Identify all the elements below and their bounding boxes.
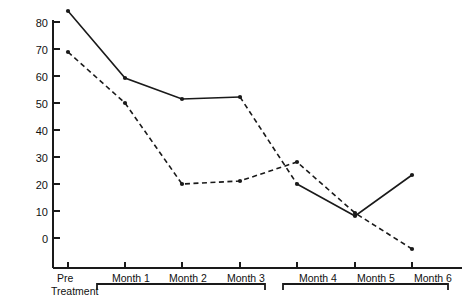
data-point-dashed-month-2 (180, 182, 184, 186)
series-solid (66, 9, 414, 218)
data-point-dashed-month-5 (353, 211, 357, 215)
data-point-dashed-month-6 (410, 247, 414, 251)
group-bracket-months-4-6 (283, 284, 448, 290)
data-point-solid-month-4 (295, 182, 299, 186)
group-bracket-months-1-3 (97, 284, 265, 290)
chart-figure: Visual analogue pain (mm) 80 70 60 50 40… (0, 0, 465, 307)
data-point-dashed-month-1 (123, 101, 127, 105)
plot-area (0, 0, 465, 307)
data-point-solid-pre (66, 9, 70, 13)
data-point-solid-month-2 (180, 97, 184, 101)
data-point-solid-month-1 (123, 76, 127, 80)
data-point-dashed-month-4 (295, 160, 299, 164)
x-axis (53, 262, 462, 268)
data-point-solid-month-3 (238, 95, 242, 99)
series-dashed (66, 50, 414, 251)
y-axis (53, 20, 60, 268)
data-point-solid-month-6 (410, 173, 414, 177)
data-point-dashed-month-3 (238, 179, 242, 183)
data-point-dashed-pre (66, 50, 70, 54)
